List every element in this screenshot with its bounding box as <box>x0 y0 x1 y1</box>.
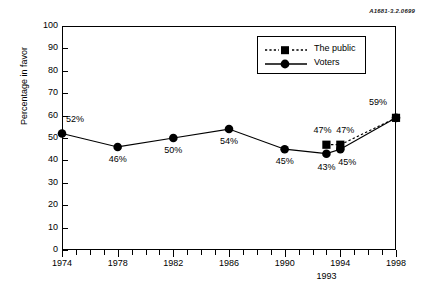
x-tick-label-1993: 1993 <box>303 271 349 281</box>
chart-legend: The public Voters <box>257 36 366 74</box>
legend-label-the-public: The public <box>314 43 356 53</box>
y-tick-label: 90 <box>18 43 58 52</box>
x-tick-major <box>229 250 230 257</box>
y-tick <box>62 160 68 161</box>
y-tick-label: 10 <box>18 223 58 232</box>
x-tick-label: 1990 <box>262 258 308 268</box>
x-tick-label: 1998 <box>373 258 419 268</box>
y-tick-label: 50 <box>18 133 58 142</box>
y-tick-label: 30 <box>18 178 58 187</box>
legend-label-voters: Voters <box>314 57 340 67</box>
y-tick-label: 40 <box>18 155 58 164</box>
legend-item-the-public: The public <box>264 41 356 55</box>
x-tick-minor <box>90 250 91 255</box>
x-tick-minor <box>132 250 133 255</box>
y-tick <box>62 71 68 72</box>
value-label: 54% <box>209 136 249 146</box>
x-tick-minor <box>382 250 383 255</box>
value-label: 45% <box>265 156 305 166</box>
y-tick-label: 0 <box>18 245 58 254</box>
x-tick-major <box>62 250 63 257</box>
x-tick-minor <box>104 250 105 255</box>
y-tick <box>62 48 68 49</box>
y-tick <box>62 26 68 27</box>
y-tick <box>62 138 68 139</box>
x-tick-major <box>118 250 119 257</box>
x-tick-major <box>340 250 341 257</box>
legend-swatch-square-dotted <box>264 42 308 54</box>
value-label: 59% <box>358 97 398 107</box>
x-tick-minor <box>146 250 147 255</box>
y-tick <box>62 205 68 206</box>
value-label: 47% <box>325 125 365 135</box>
y-tick <box>62 183 68 184</box>
x-tick-label: 1982 <box>150 258 196 268</box>
x-tick-label: 1994 <box>317 258 363 268</box>
y-tick <box>62 228 68 229</box>
y-tick-label: 20 <box>18 200 58 209</box>
x-tick-major <box>396 250 397 257</box>
y-tick-label: 60 <box>18 111 58 120</box>
x-tick-label: 1974 <box>39 258 85 268</box>
x-tick-minor <box>187 250 188 255</box>
x-tick-minor <box>243 250 244 255</box>
x-tick-minor <box>299 250 300 255</box>
x-tick-major <box>173 250 174 257</box>
y-axis-title: Percentage in favor <box>19 21 29 151</box>
x-tick-minor <box>313 250 314 255</box>
x-tick-minor <box>159 250 160 255</box>
legend-swatch-circle-solid <box>264 56 308 68</box>
x-tick-minor <box>215 250 216 255</box>
x-tick-minor <box>368 250 369 255</box>
legend-item-voters: Voters <box>264 55 356 69</box>
value-label: 52% <box>55 114 95 124</box>
x-tick-minor <box>271 250 272 255</box>
value-label: 46% <box>98 154 138 164</box>
x-tick-minor <box>76 250 77 255</box>
value-label: 45% <box>327 157 367 167</box>
chart-figure: A1681-3.2.0699 Percentage in favor 01020… <box>0 0 429 291</box>
value-label: 50% <box>153 145 193 155</box>
x-tick-major <box>285 250 286 257</box>
x-tick-label: 1978 <box>95 258 141 268</box>
x-tick-minor <box>326 250 327 255</box>
y-tick-label: 70 <box>18 88 58 97</box>
x-tick-minor <box>257 250 258 255</box>
x-tick-minor <box>354 250 355 255</box>
source-code-stamp: A1681-3.2.0699 <box>369 8 415 14</box>
y-tick <box>62 93 68 94</box>
x-tick-minor <box>201 250 202 255</box>
y-tick-label: 100 <box>18 21 58 30</box>
x-tick-label: 1986 <box>206 258 252 268</box>
y-tick-label: 80 <box>18 66 58 75</box>
